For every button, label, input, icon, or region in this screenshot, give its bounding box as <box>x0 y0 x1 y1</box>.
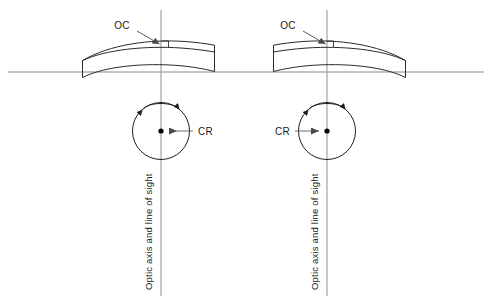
optical-diagram-figure: OC CR Optic axis and line of sight <box>0 0 492 305</box>
left-eye-diagram: OC CR Optic axis and line of sight <box>83 10 215 296</box>
cr-point-left <box>158 128 163 133</box>
optic-axis-caption-left: Optic axis and line of sight <box>143 173 154 290</box>
oc-label-right: OC <box>280 20 296 31</box>
oc-leader-line-right <box>303 31 326 44</box>
right-angle-marker-left <box>162 41 169 47</box>
diagram-canvas: OC CR Optic axis and line of sight <box>0 0 492 305</box>
oc-label-left: OC <box>114 20 130 31</box>
cr-label-left: CR <box>198 126 213 137</box>
right-eye-diagram: OC CR Optic axis and line of sight <box>274 10 406 296</box>
cr-point-right <box>324 128 329 133</box>
optic-axis-caption-right: Optic axis and line of sight <box>309 173 320 290</box>
cr-label-right: CR <box>275 126 290 137</box>
